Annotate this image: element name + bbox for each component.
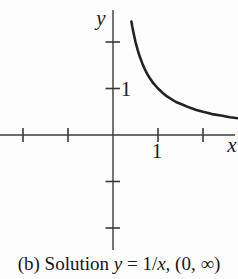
figure-solution-plot: y x 1 1 (b) Solution y = 1/x, (0, ∞) [0,0,238,279]
curve-y-equals-1-over-x [131,22,238,119]
caption-part: = 1/ [122,253,157,274]
caption-part: x [157,253,165,274]
x-axis-label: x [226,133,237,157]
caption-part: y [114,253,122,274]
x-tick-label-1: 1 [152,139,163,163]
plot: y x 1 1 [0,0,238,252]
caption-part: , (0, ∞) [166,253,221,274]
y-axis-label: y [94,6,106,30]
caption-part: (b) Solution [18,253,114,274]
y-tick-label-1: 1 [121,77,132,101]
figure-caption: (b) Solution y = 1/x, (0, ∞) [0,251,238,277]
